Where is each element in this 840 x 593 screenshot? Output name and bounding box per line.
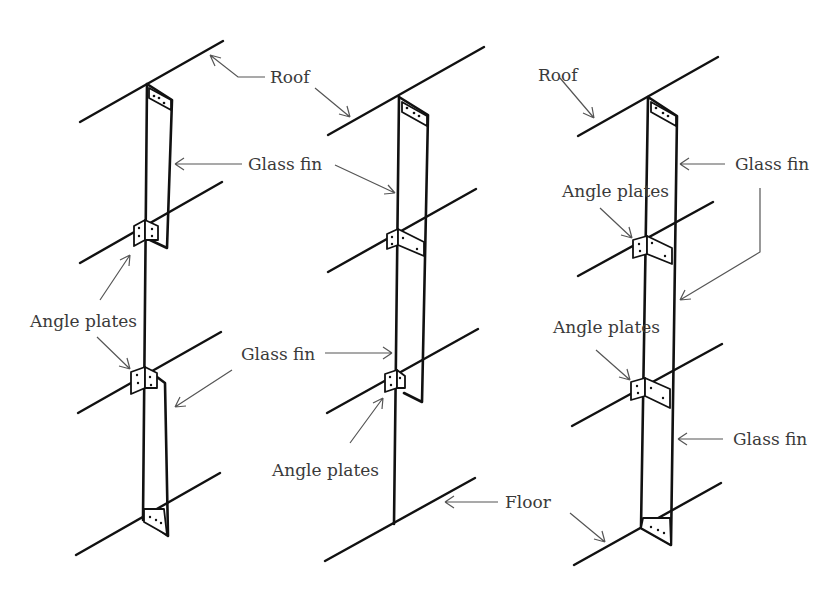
roof-beam [80, 41, 223, 122]
angle-plate [398, 229, 424, 256]
label-roof: Roof [270, 67, 311, 87]
angle-plate [385, 370, 397, 392]
middle-panel: Glass fin Glass fin Angle plates Floor [241, 47, 552, 561]
angle-plate [134, 220, 145, 246]
leader-arrow [315, 88, 350, 117]
leader-arrow [100, 255, 130, 300]
leader-arrow [350, 398, 383, 443]
label-glass-fin: Glass fin [735, 154, 809, 174]
leader-arrow [97, 337, 130, 369]
glass-fin-diagram: Roof Glass fin Angle plates Glass fin Gl… [0, 0, 840, 593]
leader-arrow [175, 158, 242, 170]
label-angle-plates: Angle plates [561, 181, 669, 201]
leader-arrow [210, 55, 265, 77]
mullion-line [394, 97, 399, 524]
angle-plate [631, 378, 645, 400]
angle-plate [387, 229, 398, 249]
label-glass-fin: Glass fin [733, 429, 807, 449]
leader-arrow [678, 433, 723, 445]
label-angle-plates: Angle plates [29, 311, 137, 331]
leader-arrow [680, 158, 725, 170]
label-glass-fin: Glass fin [241, 344, 315, 364]
leader-arrow [680, 188, 760, 300]
leader-arrow [570, 513, 605, 542]
label-angle-plates: Angle plates [552, 317, 660, 337]
angle-plate [397, 370, 405, 388]
angle-plate [645, 378, 670, 408]
label-angle-plates: Angle plates [271, 460, 379, 480]
angle-plate [144, 509, 167, 535]
leader-arrow [335, 165, 395, 194]
right-panel: Roof Glass fin Angle plates Angle plates… [538, 57, 809, 565]
leader-arrow [600, 208, 632, 238]
roof-beam [328, 47, 484, 135]
angle-plate [641, 518, 671, 545]
leader-arrow [175, 370, 232, 407]
mullion-line [143, 84, 147, 520]
angle-plate [647, 236, 672, 264]
label-roof: Roof [538, 65, 579, 85]
leader-arrow [325, 347, 392, 359]
floor-beam [325, 478, 475, 561]
angle-plate [633, 236, 647, 258]
leader-arrow [596, 350, 630, 380]
label-glass-fin: Glass fin [248, 154, 322, 174]
leader-arrow [445, 496, 498, 508]
label-floor: Floor [505, 492, 552, 512]
floor-beam [327, 329, 478, 413]
